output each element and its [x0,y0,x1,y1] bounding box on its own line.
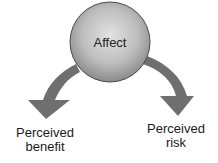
affect-node-label: Affect [68,36,152,50]
risk-label-line2: risk [134,136,218,150]
affect-label-text: Affect [93,35,126,50]
benefit-label-line2: benefit [2,140,88,154]
perceived-benefit-label: Perceived benefit [2,126,88,154]
risk-label-line1: Perceived [134,122,218,136]
benefit-label-line1: Perceived [2,126,88,140]
arrow-affect-to-risk [143,56,194,116]
arrow-affect-to-benefit [28,64,80,119]
perceived-risk-label: Perceived risk [134,122,218,150]
